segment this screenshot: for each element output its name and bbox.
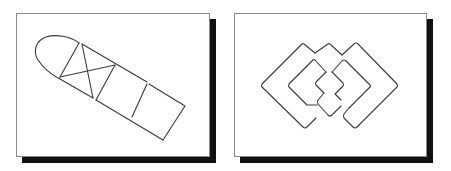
xbox-right-side — [96, 65, 115, 100]
diamond-center-peak — [315, 44, 342, 56]
bullet-lower-edge-2 — [96, 100, 163, 140]
diagram-canvas — [0, 0, 451, 171]
end-square — [149, 84, 185, 140]
diamond-center — [316, 72, 342, 116]
bullet-upper-edge — [82, 44, 147, 82]
xbox-cross-2 — [82, 44, 93, 98]
diamond-center-right — [332, 72, 344, 100]
bullet-shape — [35, 36, 185, 140]
diamond-right-inner — [332, 60, 371, 108]
xbox-left-side — [60, 43, 79, 77]
bullet-nose-arc — [35, 36, 79, 79]
bullet-lower-edge — [60, 79, 93, 98]
diamond-left-inner — [289, 60, 327, 106]
segment-divider — [132, 84, 147, 117]
interlocking-diamonds — [262, 43, 398, 128]
